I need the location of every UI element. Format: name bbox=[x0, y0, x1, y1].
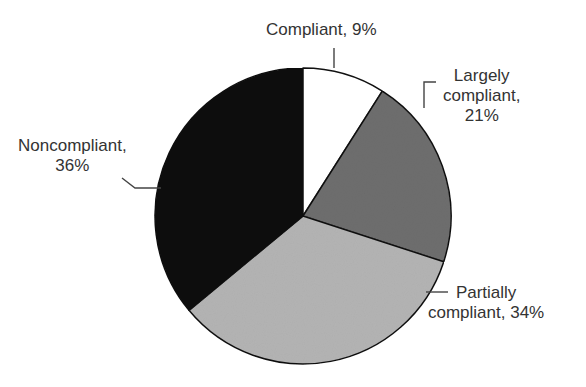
label-partially-line1: Partially bbox=[428, 283, 544, 303]
label-noncompliant: Noncompliant, 36% bbox=[18, 136, 127, 176]
label-noncompliant-line1: Noncompliant, bbox=[18, 136, 127, 156]
label-partially-compliant: Partially compliant, 34% bbox=[428, 283, 544, 323]
label-largely-compliant: Largely compliant, 21% bbox=[443, 66, 520, 126]
leader-line-largely bbox=[424, 82, 436, 108]
label-largely-line2: compliant, bbox=[443, 86, 520, 106]
pie-chart bbox=[0, 0, 586, 387]
label-largely-line3: 21% bbox=[443, 106, 520, 126]
label-compliant: Compliant, 9% bbox=[266, 20, 377, 40]
label-noncompliant-line2: 36% bbox=[18, 156, 127, 176]
label-partially-line2: compliant, 34% bbox=[428, 303, 544, 323]
label-largely-line1: Largely bbox=[443, 66, 520, 86]
leader-line-noncompliant bbox=[122, 178, 161, 188]
pie-slices bbox=[155, 68, 451, 364]
label-compliant-text: Compliant, 9% bbox=[266, 20, 377, 40]
